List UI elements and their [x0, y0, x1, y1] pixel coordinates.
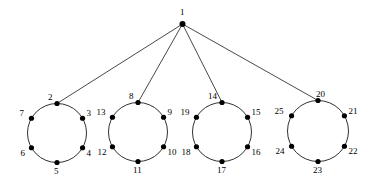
graph-node-22	[342, 144, 347, 149]
node-label-18: 18	[181, 148, 190, 157]
graph-node-19	[194, 115, 199, 120]
graph-node-11	[135, 159, 140, 164]
graph-node-18	[194, 144, 199, 149]
node-label-20: 20	[316, 90, 325, 99]
node-label-24: 24	[276, 147, 285, 156]
graph-node-9	[161, 115, 166, 120]
node-label-19: 19	[180, 108, 189, 117]
graph-node-6	[29, 145, 34, 150]
graph-figure: 2345678910111213141516171819202122232425…	[0, 0, 379, 183]
graph-node-15	[245, 115, 250, 120]
edge-1-2	[57, 24, 183, 104]
graph-node-24	[289, 144, 294, 149]
node-label-22: 22	[348, 147, 357, 156]
node-label-25: 25	[275, 107, 284, 116]
graph-node-23	[315, 159, 320, 164]
node-label-9: 9	[168, 108, 173, 117]
node-label-5: 5	[54, 167, 59, 176]
graph-node-20	[315, 98, 320, 103]
node-label-11: 11	[133, 166, 142, 175]
node-label-6: 6	[20, 149, 25, 158]
edges-layer	[57, 24, 318, 104]
node-label-3: 3	[87, 109, 92, 118]
node-label-2: 2	[48, 93, 53, 102]
node-label-16: 16	[252, 148, 261, 157]
graph-node-8	[135, 100, 140, 105]
graph-node-12	[110, 144, 115, 149]
edge-1-20	[183, 24, 319, 101]
nodes-layer	[29, 21, 347, 165]
graph-node-14	[219, 100, 224, 105]
node-label-23: 23	[313, 166, 322, 175]
node-label-17: 17	[217, 166, 226, 175]
edge-1-8	[138, 24, 183, 103]
node-label-10: 10	[168, 148, 177, 157]
cluster-2-outline	[109, 103, 168, 162]
graph-node-10	[161, 144, 166, 149]
node-label-15: 15	[252, 108, 261, 117]
graph-node-13	[110, 115, 115, 120]
node-label-21: 21	[348, 107, 357, 116]
graph-node-17	[219, 159, 224, 164]
graph-node-25	[289, 113, 294, 118]
graph-node-3	[80, 116, 85, 121]
graph-node-7	[29, 116, 34, 121]
graph-node-2	[54, 101, 59, 106]
cluster-1-outline	[28, 104, 87, 163]
node-label-7: 7	[19, 109, 24, 118]
graph-node-21	[342, 113, 347, 118]
node-label-13: 13	[96, 108, 105, 117]
cluster-4-outline	[288, 101, 349, 162]
node-label-1: 1	[180, 8, 185, 17]
graph-node-1	[180, 21, 186, 27]
graph-node-5	[54, 160, 59, 165]
node-label-14: 14	[208, 92, 217, 101]
node-label-4: 4	[87, 149, 92, 158]
graph-node-4	[80, 145, 85, 150]
node-label-12: 12	[97, 148, 106, 157]
node-label-8: 8	[129, 92, 134, 101]
cluster-3-outline	[193, 103, 252, 162]
graph-node-16	[245, 144, 250, 149]
